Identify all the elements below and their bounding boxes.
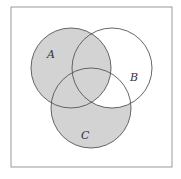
venn-diagram: A B C <box>0 0 181 179</box>
set-a-label: A <box>46 48 55 61</box>
set-c-label: C <box>81 129 90 142</box>
set-b-label: B <box>129 71 138 84</box>
